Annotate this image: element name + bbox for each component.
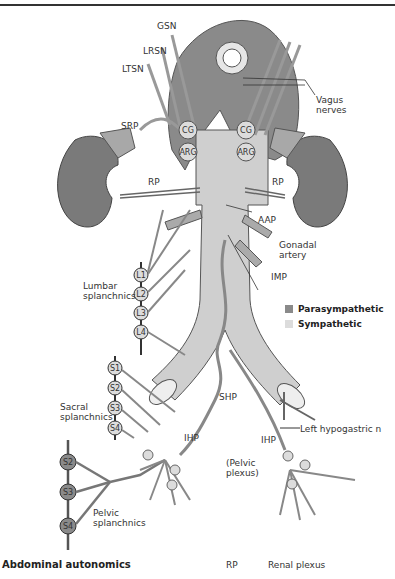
- label-ihp-right: IHP: [261, 435, 276, 445]
- label-lumbar-splanchnics: Lumbar splanchnics: [83, 281, 133, 301]
- legend-label-parasympathetic: Parasympathetic: [298, 304, 384, 314]
- aorta: [152, 130, 300, 405]
- footer: Abdominal autonomics RP Renal plexus: [0, 559, 395, 575]
- ganglion-pelvic-s2: S2: [63, 458, 73, 467]
- ganglion-l3: L3: [136, 309, 146, 318]
- label-ltsn: LTSN: [122, 64, 144, 74]
- label-rp-right: RP: [272, 177, 284, 187]
- legend: Parasympathetic Sympathetic: [285, 304, 384, 334]
- ganglion-arg-left: ARG: [179, 148, 196, 157]
- label-pelvic-plexus: (Pelvic plexus): [226, 458, 264, 478]
- autonomic-diagram: CG CG ARG ARG L1 L2 L3 L4 S1 S2 S3 S4 S2…: [0, 0, 395, 579]
- label-aap: AAP: [258, 215, 276, 225]
- ganglion-l1: L1: [136, 271, 146, 280]
- label-sacral-splanchnics: Sacral splanchnics: [60, 402, 108, 422]
- label-pelvic-splanchnics: Pelvic splanchnics: [93, 508, 143, 528]
- right-kidney: [287, 136, 348, 227]
- ganglion-pelvic-s3: S3: [63, 488, 73, 497]
- label-imp: IMP: [271, 272, 287, 282]
- label-srp: SRP: [121, 121, 138, 131]
- ganglion-s4: S4: [110, 424, 120, 433]
- label-gsn: GSN: [157, 21, 176, 31]
- label-gonadal-artery: Gonadal artery: [279, 240, 321, 260]
- figure-title: Abdominal autonomics: [2, 559, 131, 570]
- ganglion-arg-right: ARG: [237, 148, 254, 157]
- legend-item-parasympathetic: Parasympathetic: [285, 304, 384, 314]
- legend-label-sympathetic: Sympathetic: [298, 319, 362, 329]
- ganglion-s1: S1: [110, 364, 120, 373]
- ganglion-cg-left: CG: [182, 126, 194, 135]
- ganglion-cg-right: CG: [240, 126, 252, 135]
- ganglion-l2: L2: [136, 290, 146, 299]
- label-vagus-nerves: Vagus nerves: [316, 95, 356, 115]
- abbreviation-key: RP: [226, 560, 238, 570]
- legend-swatch-parasympathetic: [285, 305, 293, 313]
- abbreviation-definition: Renal plexus: [268, 560, 325, 570]
- ganglion-s2: S2: [110, 384, 120, 393]
- ganglion-l4: L4: [136, 328, 146, 337]
- label-ihp-left: IHP: [184, 433, 199, 443]
- legend-swatch-sympathetic: [285, 320, 293, 328]
- label-lrsn: LRSN: [143, 46, 167, 56]
- label-left-hypogastric-n: Left hypogastric n: [300, 424, 381, 434]
- legend-item-sympathetic: Sympathetic: [285, 319, 384, 329]
- ganglion-pelvic-s4: S4: [63, 522, 73, 531]
- label-shp: SHP: [219, 392, 237, 402]
- label-rp-left: RP: [148, 177, 160, 187]
- left-kidney: [58, 136, 119, 227]
